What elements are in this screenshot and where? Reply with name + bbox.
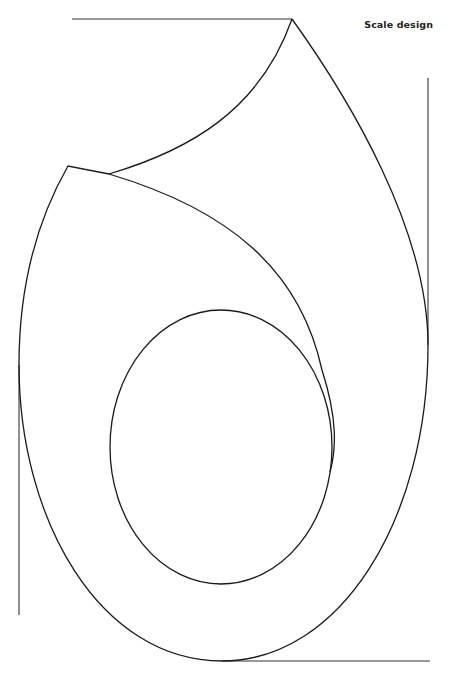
- inner-sweep-curve: [109, 174, 334, 472]
- outer-teardrop-outline: [19, 19, 428, 661]
- upper-flap-curve: [109, 19, 292, 174]
- scale-design-diagram: [0, 0, 449, 678]
- inner-ellipse: [110, 310, 332, 584]
